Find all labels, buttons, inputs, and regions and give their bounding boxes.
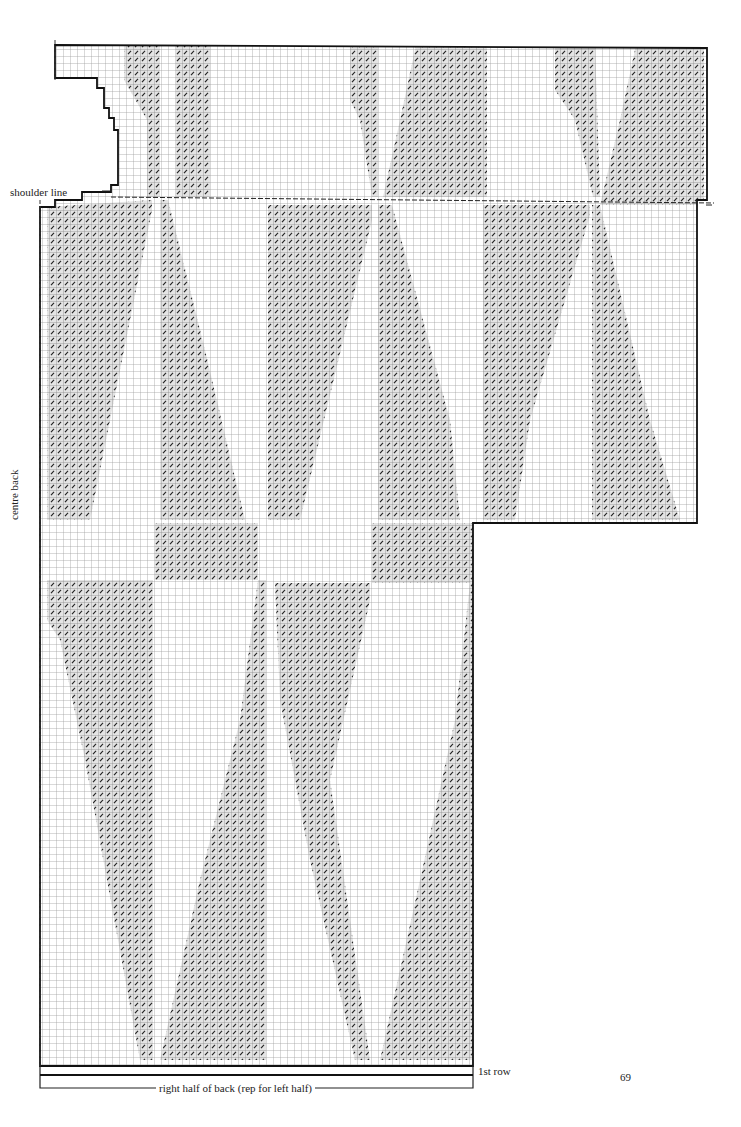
knitting-chart <box>0 0 741 1127</box>
shoulder-line-label: shoulder line <box>10 186 67 198</box>
page-number: 69 <box>620 1071 631 1083</box>
motif-upper-strip-1 <box>155 523 258 580</box>
first-row-label: 1st row <box>478 1065 511 1077</box>
motif-upper-strip-2 <box>372 523 473 583</box>
bottom-caption: right half of back (rep for left half) <box>156 1082 315 1094</box>
motif-yoke-band-2 <box>176 45 210 197</box>
chart-grid-area <box>40 40 714 1088</box>
centre-back-label: centre back <box>8 470 20 520</box>
